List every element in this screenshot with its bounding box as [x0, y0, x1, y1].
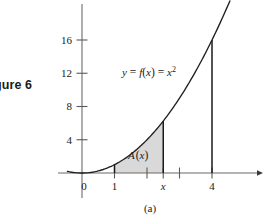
- y-tick-label: 4: [67, 134, 73, 146]
- eq-rest: =: [127, 66, 139, 78]
- area-function-label: A(x): [127, 149, 148, 162]
- x-axis-arrow-icon: [257, 170, 263, 176]
- x-tick-label: 0: [81, 180, 87, 192]
- y-tick-label: 16: [61, 34, 73, 46]
- area-letter-A: A: [127, 149, 135, 161]
- x-tick-label: 4: [209, 180, 215, 192]
- y-tick-label: 8: [67, 100, 73, 112]
- y-axis-tick-labels: 481216: [61, 34, 73, 146]
- x-tick-label: 1: [112, 180, 118, 192]
- eq-exponent: 2: [172, 65, 176, 74]
- x-axis-tick-labels: 01x4: [81, 180, 215, 192]
- y-tick-label: 12: [61, 67, 72, 79]
- function-equation-label: y = f(x) = x2: [121, 65, 176, 79]
- figure-container: gure 6 481216 01x4 y = f(x) = x2 A(x) (a…: [0, 0, 266, 219]
- x-tick-label: x: [160, 180, 166, 192]
- figure-caption: (a): [144, 202, 157, 215]
- graph-svg: 481216 01x4 y = f(x) = x2 A(x) (a): [0, 0, 266, 219]
